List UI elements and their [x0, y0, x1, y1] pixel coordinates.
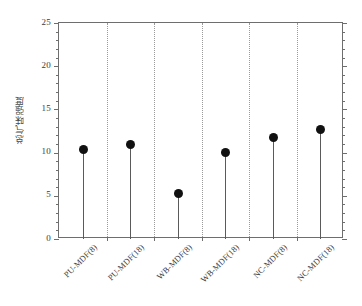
y-tick-minor: [56, 230, 59, 231]
y-tick-label: 15: [29, 104, 51, 113]
y-tick-minor: [56, 213, 59, 214]
data-point-marker: [79, 145, 88, 154]
x-tick-label: NC-MDF(18): [295, 242, 336, 283]
y-tick-label: 25: [29, 18, 51, 27]
y-tick-major-right: [342, 66, 347, 67]
y-tick-major-right: [342, 239, 347, 240]
data-point-marker: [316, 125, 325, 134]
data-point-marker: [126, 140, 135, 149]
category-separator: [297, 23, 298, 237]
category-separator: [154, 23, 155, 237]
y-tick-label: 5: [29, 190, 51, 199]
y-tick-minor-right: [342, 144, 345, 145]
data-point-marker: [174, 189, 183, 198]
plot-area: [58, 22, 343, 238]
data-stem: [83, 149, 84, 239]
y-tick-minor: [56, 135, 59, 136]
data-stem: [130, 145, 131, 239]
y-tick-minor-right: [342, 230, 345, 231]
y-tick-minor-right: [342, 92, 345, 93]
chart-figure: 总气味强度 0510152025 PU-MDF(8)PU-MDF(18)WB-M…: [0, 0, 362, 306]
y-tick-minor: [56, 83, 59, 84]
y-tick-minor: [56, 204, 59, 205]
y-tick-minor: [56, 92, 59, 93]
y-tick-minor-right: [342, 213, 345, 214]
x-tick: [107, 237, 108, 241]
y-tick-minor-right: [342, 127, 345, 128]
y-tick-major: [54, 239, 59, 240]
y-tick-minor: [56, 49, 59, 50]
x-tick-label: WB-MDF(8): [154, 242, 193, 281]
x-tick-label: WB-MDF(18): [199, 242, 242, 285]
y-tick-major: [54, 109, 59, 110]
x-tick-label: NC-MDF(8): [251, 242, 289, 280]
y-tick-major: [54, 196, 59, 197]
y-tick-major-right: [342, 153, 347, 154]
y-tick-minor-right: [342, 75, 345, 76]
y-tick-minor: [56, 170, 59, 171]
y-tick-minor-right: [342, 101, 345, 102]
data-stem: [273, 138, 274, 239]
y-tick-minor-right: [342, 118, 345, 119]
y-tick-label: 20: [29, 61, 51, 70]
y-tick-minor: [56, 144, 59, 145]
data-stem: [178, 193, 179, 239]
y-tick-label: 0: [29, 234, 51, 243]
y-tick-minor: [56, 222, 59, 223]
y-tick-minor-right: [342, 170, 345, 171]
y-tick-minor-right: [342, 135, 345, 136]
x-tick-label: PU-MDF(8): [61, 242, 98, 279]
y-tick-major-right: [342, 196, 347, 197]
y-tick-major-right: [342, 109, 347, 110]
y-tick-minor: [56, 32, 59, 33]
y-axis-title: 总气味强度: [12, 96, 26, 144]
y-tick-minor: [56, 75, 59, 76]
y-tick-minor: [56, 101, 59, 102]
data-stem: [225, 153, 226, 239]
y-tick-minor-right: [342, 179, 345, 180]
y-tick-minor: [56, 127, 59, 128]
y-tick-minor-right: [342, 222, 345, 223]
y-tick-major: [54, 23, 59, 24]
y-tick-minor: [56, 40, 59, 41]
x-tick: [249, 237, 250, 241]
x-tick-label: PU-MDF(18): [106, 242, 147, 283]
y-tick-minor-right: [342, 40, 345, 41]
y-tick-minor-right: [342, 58, 345, 59]
y-tick-minor: [56, 187, 59, 188]
y-tick-minor-right: [342, 161, 345, 162]
y-tick-minor: [56, 118, 59, 119]
x-tick: [297, 237, 298, 241]
category-separator: [107, 23, 108, 237]
y-tick-minor-right: [342, 32, 345, 33]
x-tick: [202, 237, 203, 241]
y-tick-major: [54, 153, 59, 154]
y-tick-minor-right: [342, 83, 345, 84]
data-point-marker: [221, 148, 230, 157]
y-tick-label: 10: [29, 147, 51, 156]
y-tick-minor: [56, 58, 59, 59]
y-tick-minor: [56, 161, 59, 162]
y-tick-major-right: [342, 23, 347, 24]
x-tick: [154, 237, 155, 241]
category-separator: [249, 23, 250, 237]
y-tick-minor-right: [342, 204, 345, 205]
category-separator: [202, 23, 203, 237]
y-tick-minor-right: [342, 187, 345, 188]
y-tick-major: [54, 66, 59, 67]
data-point-marker: [269, 133, 278, 142]
data-stem: [320, 129, 321, 239]
y-tick-minor: [56, 179, 59, 180]
y-tick-minor-right: [342, 49, 345, 50]
